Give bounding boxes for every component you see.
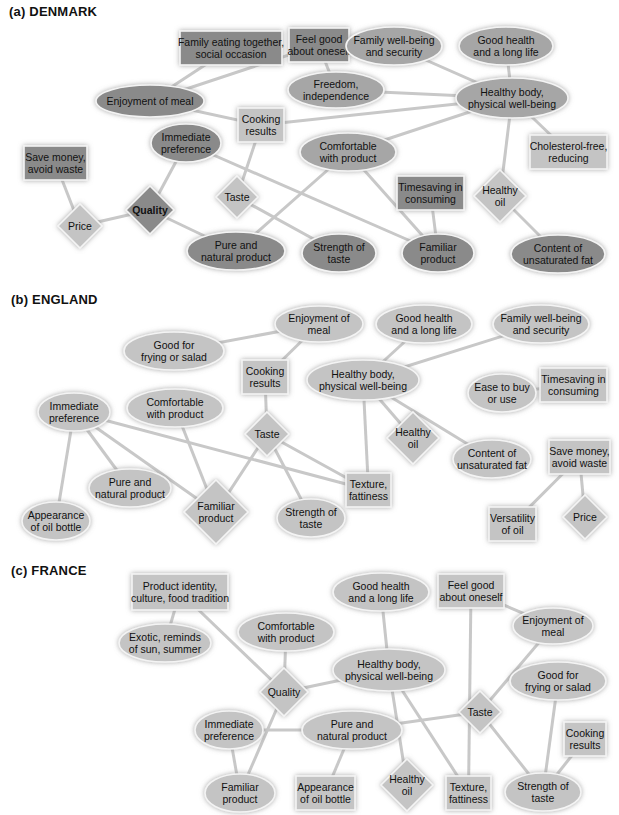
- node-label: Good health: [477, 34, 534, 46]
- node-denmark-immediate: Immediatepreference: [151, 124, 221, 162]
- node-label: product: [222, 793, 257, 805]
- node-france-pure-natural: Pure andnatural product: [302, 711, 402, 749]
- node-label: physical well-being: [345, 670, 433, 682]
- node-label: Enjoyment of meal: [107, 95, 194, 107]
- node-label: Healthy: [389, 773, 425, 785]
- node-denmark-family-eating: Family eating together,social occasion: [178, 31, 284, 65]
- node-label: Cooking: [246, 365, 285, 377]
- node-france-immediate: Immediatepreference: [195, 711, 263, 749]
- node-denmark-good-health: Good healthand a long life: [459, 27, 553, 65]
- node-label: Cooking: [242, 113, 281, 125]
- node-label: Strength of: [285, 506, 336, 518]
- node-label: Enjoyment of: [522, 614, 583, 626]
- node-label: avoid waste: [552, 457, 608, 469]
- node-label: reducing: [548, 152, 588, 164]
- node-label: oil: [408, 438, 419, 450]
- node-denmark-cholesterol: Cholesterol-free,reducing: [530, 135, 608, 169]
- node-label: fattiness: [349, 490, 388, 502]
- node-denmark-cooking: Cookingresults: [238, 108, 284, 142]
- node-denmark-taste: Taste: [216, 176, 258, 218]
- node-label: Strength of: [517, 780, 568, 792]
- node-label: Healthy: [482, 184, 518, 196]
- node-label: consuming: [548, 385, 599, 397]
- node-label: Save money,: [25, 151, 86, 163]
- node-label: Ease to buy: [474, 381, 530, 393]
- node-label: taste: [532, 792, 555, 804]
- node-france-appearance: Appearanceof oil bottle: [296, 776, 355, 810]
- node-label: Feel good: [448, 579, 495, 591]
- node-label: product: [420, 253, 455, 265]
- node-label: preference: [204, 730, 254, 742]
- node-denmark-comfortable: Comfortablewith product: [300, 133, 396, 171]
- node-denmark-save-money: Save money,avoid waste: [24, 146, 87, 180]
- node-label: Appearance: [297, 781, 354, 793]
- node-label: Texture,: [350, 478, 387, 490]
- node-france-good-health: Good healthand a long life: [333, 573, 429, 611]
- node-label: social occasion: [195, 48, 266, 60]
- node-label: Versatility: [490, 512, 536, 524]
- node-denmark-strength: Strength oftaste: [302, 234, 376, 272]
- node-label: Good for: [154, 339, 195, 351]
- node-label: frying or salad: [141, 351, 207, 363]
- node-label: Feel good: [296, 33, 343, 45]
- node-france-taste: Taste: [459, 691, 501, 733]
- node-label: culture, food tradition: [131, 592, 229, 604]
- node-label: Texture,: [450, 781, 487, 793]
- node-label: oil: [402, 785, 413, 797]
- node-label: unsaturated fat: [523, 254, 593, 266]
- node-label: and security: [513, 324, 570, 336]
- node-label: Enjoyment of: [288, 312, 349, 324]
- node-england-appearance: Appearanceof oil bottle: [22, 502, 90, 540]
- node-england-comfortable: Comfortablewith product: [127, 389, 223, 427]
- node-label: Taste: [467, 706, 492, 718]
- node-label: frying or salad: [525, 681, 591, 693]
- node-france-healthy-body: Healthy body,physical well-being: [333, 649, 445, 691]
- node-label: unsaturated fat: [457, 459, 527, 471]
- node-label: with product: [146, 408, 204, 420]
- node-label: Timesaving in: [541, 373, 606, 385]
- node-label: Good health: [352, 580, 409, 592]
- node-label: Immediate: [204, 718, 253, 730]
- node-label: Product identity,: [143, 580, 218, 592]
- node-label: Quality: [132, 204, 168, 216]
- node-label: of oil bottle: [300, 793, 351, 805]
- node-label: Cooking: [566, 727, 605, 739]
- node-label: Taste: [224, 191, 249, 203]
- node-england-unsaturated: Content ofunsaturated fat: [453, 440, 531, 478]
- node-england-immediate: Immediatepreference: [38, 393, 110, 431]
- node-label: Family eating together,: [178, 36, 284, 48]
- node-label: natural product: [317, 730, 387, 742]
- node-denmark-feel-good: Feel goodabout oneself: [287, 28, 350, 62]
- node-label: or use: [487, 393, 516, 405]
- node-label: Familiar: [221, 781, 259, 793]
- node-label: product: [198, 512, 233, 524]
- node-label: of sun, summer: [129, 643, 202, 655]
- node-label: Immediate: [49, 400, 98, 412]
- node-france-strength: Strength oftaste: [505, 773, 581, 811]
- node-label: natural product: [95, 488, 165, 500]
- node-england-enjoyment: Enjoyment ofmeal: [275, 306, 363, 342]
- node-france-feel-good: Feel goodabout oneself: [438, 574, 504, 608]
- node-england-timesaving: Timesaving inconsuming: [540, 368, 607, 402]
- node-label: with product: [319, 152, 377, 164]
- node-denmark-timesaving: Timesaving inconsuming: [397, 176, 464, 210]
- node-label: preference: [161, 143, 211, 155]
- node-label: and a long life: [473, 46, 539, 58]
- node-label: Comfortable: [257, 620, 314, 632]
- node-france-good-frying: Good forfrying or salad: [510, 662, 606, 700]
- node-label: Save money,: [549, 445, 610, 457]
- node-france-cooking: Cookingresults: [564, 722, 606, 756]
- node-label: Appearance: [28, 509, 85, 521]
- node-denmark-familiar: Familiarproduct: [402, 234, 474, 272]
- node-label: meal: [308, 324, 331, 336]
- node-england-ease-buy: Ease to buyor use: [468, 374, 536, 412]
- node-denmark-quality: Quality: [126, 186, 174, 234]
- node-england-healthy-body: Healthy body,physical well-being: [307, 360, 419, 400]
- node-france-enjoyment: Enjoyment ofmeal: [513, 608, 593, 644]
- node-england-good-health: Good healthand a long life: [376, 305, 472, 343]
- node-england-strength: Strength oftaste: [277, 499, 345, 537]
- node-label: Healthy body,: [331, 368, 394, 380]
- node-england-good-frying: Good forfrying or salad: [124, 332, 224, 370]
- node-france-product-identity: Product identity,culture, food tradition: [131, 574, 229, 610]
- node-label: Comfortable: [319, 140, 376, 152]
